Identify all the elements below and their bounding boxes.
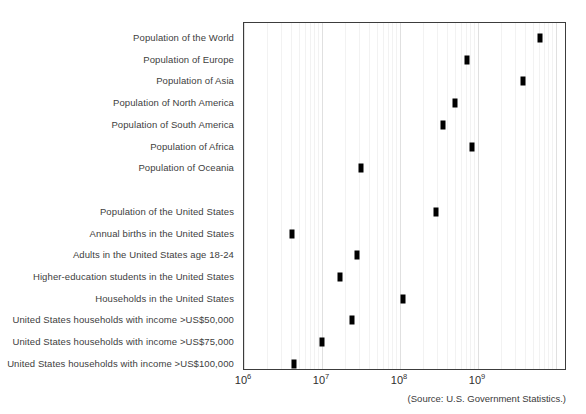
figure-container: Population of the WorldPopulation of Eur… <box>0 0 586 414</box>
x-axis-tick-labels: 106107108109 <box>0 0 586 414</box>
source-note: (Source: U.S. Government Statistics.) <box>408 393 566 404</box>
x-tick-label: 108 <box>391 374 407 386</box>
x-tick-label: 107 <box>313 374 329 386</box>
x-tick-label: 106 <box>235 374 251 386</box>
x-tick-label: 109 <box>469 374 485 386</box>
